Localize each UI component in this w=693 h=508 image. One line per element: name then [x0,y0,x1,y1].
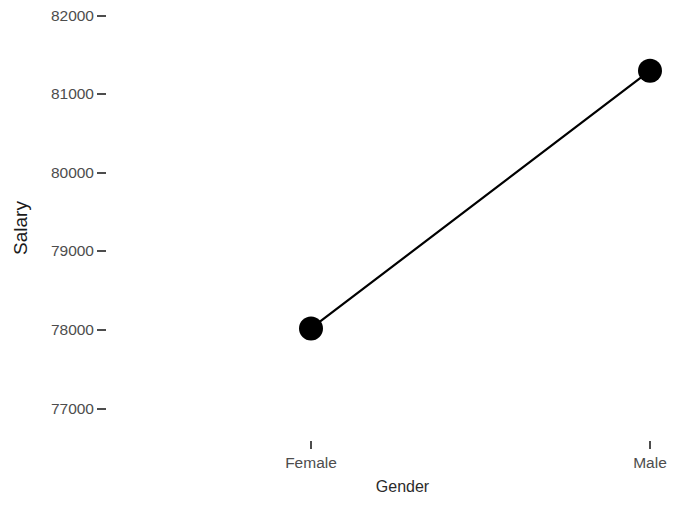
x-axis-title-label: Gender [376,478,429,495]
salary-by-gender-chart: Salary 770007800079000800008100082000 Fe… [0,0,693,508]
x-axis: FemaleMale Gender [0,0,693,508]
x-tick-mark [649,441,651,449]
x-tick-label: Female [285,454,337,472]
x-tick-label: Male [633,454,667,472]
x-tick-mark [310,441,312,449]
x-axis-title: Gender [112,478,693,496]
